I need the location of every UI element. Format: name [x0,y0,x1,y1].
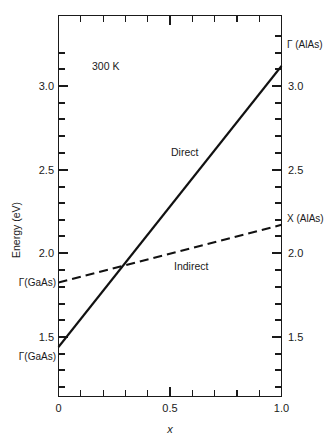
x-tick-label-0-5: 0.5 [162,402,177,414]
y-tick-label-1-5: 1.5 [39,331,54,343]
series-direct-line [59,66,282,347]
temperature-annotation: 300 K [92,60,119,72]
indirect-curve-label: Indirect [174,260,209,272]
y-right-tick-label-2-5: 2.5 [288,164,303,176]
x-axis-title: x [166,423,173,435]
y-right-tick-label-3-0: 3.0 [288,80,303,92]
y-axis-title: Energy (eV) [10,202,22,258]
y-tick-label-3-0: 3.0 [39,80,54,92]
bandgap-composition-figure: 3.0 2.5 2.0 1.5 3.0 2.5 2.0 1.5 0 0.5 1.… [0,0,334,442]
top-axis-ticks [81,16,259,26]
gamma-gaas-indirect-endpoint-label: Γ(GaAs) [19,277,56,288]
x-tick-label-1-0: 1.0 [274,402,289,414]
chart-svg: 3.0 2.5 2.0 1.5 3.0 2.5 2.0 1.5 0 0.5 1.… [0,0,334,442]
x-alas-endpoint-label: X (AlAs) [287,213,324,224]
gamma-alas-endpoint-label: Γ (AlAs) [287,39,323,50]
gamma-gaas-direct-endpoint-label: Γ(GaAs) [19,351,56,362]
right-axis-ticks [272,36,282,387]
y-tick-label-2-5: 2.5 [39,164,54,176]
x-tick-label-0: 0 [55,402,61,414]
series-indirect-line [59,225,282,283]
y-tick-label-2-0: 2.0 [39,247,54,259]
bottom-axis-ticks [81,387,259,397]
direct-curve-label: Direct [171,146,199,158]
y-right-tick-label-2-0: 2.0 [288,247,303,259]
y-right-tick-label-1-5: 1.5 [288,331,303,343]
